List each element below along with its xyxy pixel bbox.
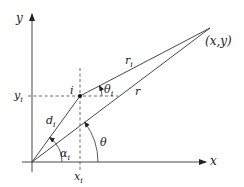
r-label: r xyxy=(135,85,141,98)
alpha-i-label: αi xyxy=(60,147,70,162)
r-i-label: ri xyxy=(125,54,133,69)
point-i xyxy=(78,94,82,98)
y-i-label: yi xyxy=(13,89,23,104)
theta-label: θ xyxy=(100,136,107,149)
d-i-label: di xyxy=(46,114,56,129)
segment-d-i xyxy=(32,96,80,162)
target-point-label: (x,y) xyxy=(205,34,232,48)
x-axis-label: x xyxy=(210,154,217,168)
point-i-label: i xyxy=(70,84,74,97)
theta-arc xyxy=(85,122,98,162)
segment-r-i xyxy=(80,28,210,96)
y-axis-label: y xyxy=(15,11,23,25)
geometry-diagram: y x (x,y) i ri r di θ θi αi xi yi xyxy=(0,0,244,187)
segment-r xyxy=(32,28,210,162)
x-i-label: xi xyxy=(74,170,83,185)
theta-i-label: θi xyxy=(104,83,114,98)
theta-i-arc xyxy=(100,86,103,96)
